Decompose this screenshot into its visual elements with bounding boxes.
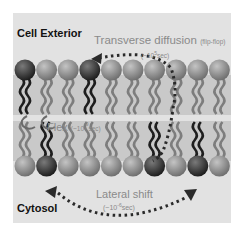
lipid-tail	[156, 78, 160, 114]
transverse-diffusion-label: Transverse diffusion (flip-flop)	[94, 34, 225, 46]
lipid-tail	[193, 78, 197, 114]
lateral-shift-label: Lateral shift	[96, 188, 153, 200]
lipid-tail	[150, 122, 154, 158]
cytosol-label: Cytosol	[17, 202, 57, 214]
lipid-tail	[193, 122, 197, 158]
phospholipid-head	[101, 156, 122, 177]
lipid-tail	[48, 78, 52, 114]
phospholipid-head	[166, 156, 187, 177]
lipid-tail	[91, 78, 95, 114]
lipid-tail	[150, 78, 154, 114]
bilayer-diagram: Cell Exterior Cytosol Transverse diffusi…	[13, 13, 231, 223]
lipid-tail	[112, 78, 116, 114]
phospholipid-head	[79, 156, 100, 177]
lateral-shift-time: (~10-6sec)	[103, 202, 135, 211]
phospholipid-head	[123, 156, 144, 177]
lipid-tail	[26, 78, 30, 114]
phospholipid-head	[209, 156, 230, 177]
lipid-tail	[199, 122, 203, 158]
lipid-tail	[128, 78, 132, 114]
lipid-tail	[156, 122, 160, 158]
phospholipid-head	[187, 60, 208, 81]
phospholipid-head	[58, 60, 79, 81]
lipid-tail	[134, 122, 138, 158]
phospholipid-head	[58, 156, 79, 177]
lipid-tail	[112, 122, 116, 158]
lipid-tail	[69, 78, 73, 114]
lipid-tail	[42, 78, 46, 114]
phospholipid-head	[209, 60, 230, 81]
transverse-diffusion-time: (~105sec)	[141, 50, 169, 59]
lipid-tail	[199, 78, 203, 114]
phospholipid-head	[123, 60, 144, 81]
phospholipid-head	[36, 60, 57, 81]
lipid-tail	[220, 78, 224, 114]
phospholipid-head	[79, 60, 100, 81]
lipid-tail	[85, 78, 89, 114]
phospholipid-head	[15, 60, 36, 81]
upper-leaflet	[15, 60, 230, 115]
lipid-tail	[214, 78, 218, 114]
phospholipid-head	[36, 156, 57, 177]
lipid-tail	[20, 78, 24, 114]
phospholipid-head	[15, 156, 36, 177]
phospholipid-head	[144, 156, 165, 177]
lipid-tail	[106, 122, 110, 158]
lipid-tail	[63, 78, 67, 114]
lipid-tail	[177, 122, 181, 158]
phospholipid-head	[187, 156, 208, 177]
lipid-tail	[134, 78, 138, 114]
flex-label: Flex (~10-9sec)	[47, 121, 101, 133]
phospholipid-head	[101, 60, 122, 81]
phospholipid-head	[166, 60, 187, 81]
lipid-tail	[171, 122, 175, 158]
lipid-tail	[106, 78, 110, 114]
lipid-tail	[220, 122, 224, 158]
lipid-tail	[177, 78, 181, 114]
cell-exterior-label: Cell Exterior	[17, 27, 82, 39]
lipid-tail	[128, 122, 132, 158]
lipid-tail	[214, 122, 218, 158]
phospholipid-head	[144, 60, 165, 81]
